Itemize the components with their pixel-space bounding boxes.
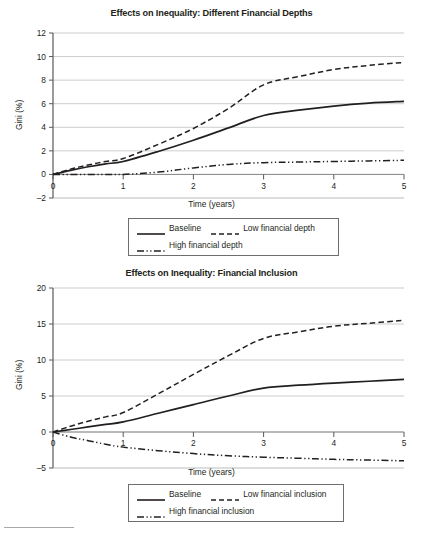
svg-text:0: 0 (41, 427, 46, 437)
legend-label-high-financial-depth: High financial depth (169, 240, 243, 250)
legend-entry-high-financial-inclusion: High financial inclusion (137, 506, 264, 516)
x-axis-title-financial-inclusion: Time (years) (0, 467, 423, 477)
svg-text:3: 3 (261, 181, 266, 191)
legend-label-high-financial-inclusion: High financial inclusion (169, 506, 254, 516)
legend-financial-depths: Baseline Low financial depth High financ… (128, 218, 339, 256)
legend-entry-low-financial-depth: Low financial depth (211, 223, 325, 233)
svg-text:20: 20 (37, 283, 47, 293)
line-solid-icon (137, 490, 165, 498)
legend-row-primary: Baseline Low financial depth (129, 219, 338, 236)
chart-financial-inclusion: Effects on Inequality: Financial Inclusi… (0, 262, 423, 536)
svg-text:1: 1 (121, 181, 126, 191)
y-axis-title-financial-inclusion: Gini (%) (14, 360, 24, 390)
svg-text:10: 10 (37, 52, 47, 62)
svg-text:4: 4 (331, 181, 336, 191)
legend-entry-baseline: Baseline (137, 223, 211, 233)
svg-text:0: 0 (51, 181, 56, 191)
svg-text:4: 4 (331, 438, 336, 448)
y-axis-title-financial-depths: Gini (%) (14, 100, 24, 130)
legend-label-low-financial-inclusion: Low financial inclusion (243, 489, 326, 499)
legend-row-secondary: High financial inclusion (129, 502, 343, 519)
legend-row-primary: Baseline Low financial inclusion (129, 485, 343, 502)
line-dash-dot-dot-icon (137, 507, 165, 515)
svg-text:2: 2 (191, 181, 196, 191)
legend-row-secondary: High financial depth (129, 236, 338, 253)
legend-label-baseline: Baseline (169, 223, 201, 233)
svg-text:12: 12 (37, 28, 47, 38)
svg-text:2: 2 (191, 438, 196, 448)
svg-text:2: 2 (41, 146, 46, 156)
chart-financial-depths: Effects on Inequality: Different Financi… (0, 0, 423, 266)
svg-text:10: 10 (37, 355, 47, 365)
svg-text:0: 0 (41, 169, 46, 179)
svg-text:0: 0 (51, 438, 56, 448)
legend-financial-inclusion: Baseline Low financial inclusion High fi… (128, 484, 344, 522)
footnote-separator-rule (4, 527, 74, 528)
line-dashed-icon (211, 224, 239, 232)
svg-text:5: 5 (41, 391, 46, 401)
svg-text:4: 4 (41, 122, 46, 132)
svg-text:8: 8 (41, 75, 46, 85)
legend-entry-low-financial-inclusion: Low financial inclusion (211, 489, 336, 499)
line-dashed-icon (211, 490, 239, 498)
svg-text:3: 3 (261, 438, 266, 448)
legend-label-baseline: Baseline (169, 489, 201, 499)
line-dash-dot-dot-icon (137, 241, 165, 249)
svg-text:5: 5 (402, 181, 407, 191)
svg-text:15: 15 (37, 319, 47, 329)
legend-entry-baseline: Baseline (137, 489, 211, 499)
line-solid-icon (137, 224, 165, 232)
svg-text:5: 5 (402, 438, 407, 448)
svg-text:6: 6 (41, 99, 46, 109)
legend-label-low-financial-depth: Low financial depth (243, 223, 315, 233)
x-axis-title-financial-depths: Time (years) (0, 199, 423, 209)
legend-entry-high-financial-depth: High financial depth (137, 240, 253, 250)
